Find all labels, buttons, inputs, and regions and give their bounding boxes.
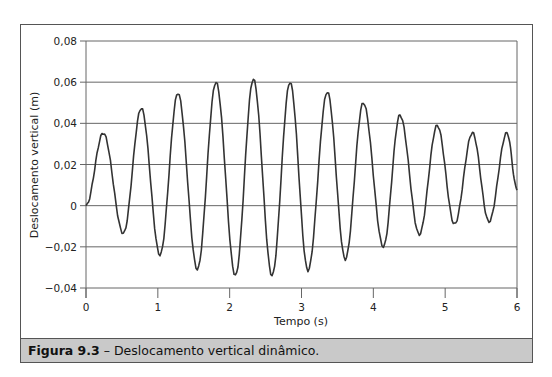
y-tick-label: 0,06 — [54, 76, 78, 88]
y-axis-ticks: −0,04−0,0200,020,040,060,08 — [45, 35, 86, 294]
x-axis-title: Tempo (s) — [273, 315, 328, 328]
x-tick-label: 2 — [226, 301, 233, 313]
y-tick-label: −0,04 — [45, 282, 77, 294]
x-tick-label: 0 — [83, 301, 90, 313]
caption-label: Figura 9.3 — [28, 343, 100, 358]
x-axis-ticks: 0123456 — [83, 288, 521, 313]
line-chart: −0,04−0,0200,020,040,060,08 0123456 Temp… — [0, 0, 552, 377]
x-tick-label: 4 — [370, 301, 377, 313]
y-axis-title: Deslocamento vertical (m) — [28, 92, 41, 238]
x-tick-label: 5 — [442, 301, 449, 313]
x-tick-label: 3 — [298, 301, 305, 313]
y-tick-label: 0,08 — [54, 35, 77, 47]
y-tick-label: −0,02 — [45, 241, 77, 253]
gridlines — [86, 41, 517, 298]
y-tick-label: 0 — [70, 200, 77, 212]
displacement-line — [86, 79, 517, 275]
figure-caption: Figura 9.3 – Deslocamento vertical dinâm… — [20, 338, 533, 363]
y-tick-label: 0,04 — [54, 117, 78, 129]
x-tick-label: 1 — [154, 301, 161, 313]
y-tick-label: 0,02 — [54, 159, 77, 171]
x-tick-label: 6 — [514, 301, 521, 313]
caption-text: – Deslocamento vertical dinâmico. — [100, 343, 319, 358]
